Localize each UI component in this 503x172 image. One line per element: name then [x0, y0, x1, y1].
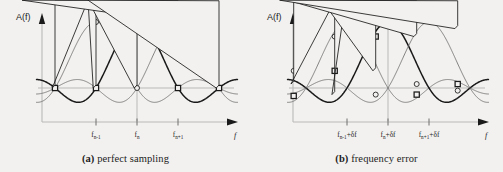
caption-tag: (b)	[335, 153, 348, 164]
panel-caption-b: (b) frequency error	[251, 153, 502, 164]
x-axis-label: f	[485, 131, 489, 140]
caption-text: frequency error	[348, 153, 417, 164]
x-axis-label: f	[234, 131, 238, 140]
x-axis-arrowhead	[478, 119, 489, 126]
y-axis-arrowhead	[39, 13, 45, 24]
panel-caption-a: (a) perfect sampling	[0, 153, 251, 164]
sample-marker-square	[175, 85, 180, 90]
sample-marker-triangle	[52, 0, 88, 88]
panel-a: A(f)ffn-1fnfn+1(a) perfect sampling	[0, 0, 251, 172]
y-axis-label: A(f)	[16, 12, 31, 22]
plot-b: A(f)ffn-1+δffn+δffn+1+δf	[251, 0, 502, 172]
sample-marker-circle	[455, 88, 460, 93]
caption-text: perfect sampling	[94, 153, 169, 164]
sample-marker-circle	[373, 92, 378, 97]
sample-marker-circle	[414, 82, 419, 87]
sample-marker-square	[455, 81, 460, 86]
panel-b: A(f)ffn-1+δffn+δffn+1+δf(b) frequency er…	[251, 0, 502, 172]
sample-marker-triangle	[88, 0, 219, 88]
x-tick-label-0: fn-1	[91, 130, 101, 140]
sample-marker-square	[414, 92, 419, 97]
x-tick-label-0: fn-1+δf	[337, 130, 357, 140]
x-tick-label-1: fn+δf	[380, 130, 396, 140]
x-tick-label-2: fn+1	[173, 130, 184, 140]
x-tick-label-2: fn+1+δf	[419, 130, 440, 140]
caption-tag: (a)	[82, 153, 95, 164]
plot-a: A(f)ffn-1fnfn+1	[0, 0, 251, 172]
y-axis-label: A(f)	[267, 12, 282, 22]
x-axis-arrowhead	[227, 119, 238, 126]
figure-root: A(f)ffn-1fnfn+1(a) perfect samplingA(f)f…	[0, 0, 503, 172]
x-tick-label-1: fn	[134, 130, 139, 140]
sample-marker-square	[291, 93, 296, 98]
